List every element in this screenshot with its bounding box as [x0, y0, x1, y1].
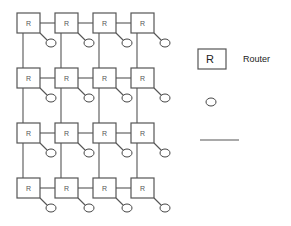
node-icon: [84, 204, 94, 212]
legend: R Router: [198, 49, 270, 140]
router-label: R: [140, 185, 145, 192]
legend-node-icon: [206, 98, 216, 106]
node-link: [78, 198, 86, 206]
node-icon: [122, 39, 132, 47]
node-link: [40, 33, 48, 41]
node-icon: [46, 149, 56, 157]
router-label: R: [26, 185, 31, 192]
node-link: [116, 33, 124, 41]
node-icon: [84, 94, 94, 102]
node-icon: [122, 149, 132, 157]
node-icon: [160, 149, 170, 157]
router-label: R: [26, 75, 31, 82]
node-link: [78, 88, 86, 96]
router-label: R: [140, 75, 145, 82]
node-icon: [122, 94, 132, 102]
router-label: R: [26, 20, 31, 27]
node-icon: [46, 94, 56, 102]
node-icon: [160, 39, 170, 47]
node-icon: [46, 204, 56, 212]
router-label: R: [140, 130, 145, 137]
router-label: R: [64, 185, 69, 192]
node-link: [154, 33, 162, 41]
node-icon: [84, 149, 94, 157]
router-label: R: [140, 20, 145, 27]
mesh-diagram: RRRRRRRRRRRRRRRR R Router: [0, 0, 291, 226]
router-label: R: [102, 130, 107, 137]
node-icon: [160, 94, 170, 102]
router-label: R: [64, 130, 69, 137]
node-icon: [122, 204, 132, 212]
node-link: [78, 33, 86, 41]
router-label: R: [102, 185, 107, 192]
router-label: R: [26, 130, 31, 137]
node-link: [154, 198, 162, 206]
router-label: R: [102, 20, 107, 27]
node-link: [40, 88, 48, 96]
node-icon: [46, 39, 56, 47]
node-link: [40, 198, 48, 206]
node-link: [78, 143, 86, 151]
legend-router-symbol-label: R: [206, 53, 214, 65]
router-label: R: [102, 75, 107, 82]
router-label: R: [64, 75, 69, 82]
node-icon: [84, 39, 94, 47]
router-grid: RRRRRRRRRRRRRRRR: [17, 13, 170, 212]
node-link: [116, 88, 124, 96]
node-link: [40, 143, 48, 151]
node-link: [116, 143, 124, 151]
node-link: [154, 143, 162, 151]
router-label: R: [64, 20, 69, 27]
node-link: [154, 88, 162, 96]
node-icon: [160, 204, 170, 212]
legend-router-text: Router: [243, 54, 270, 64]
node-link: [116, 198, 124, 206]
